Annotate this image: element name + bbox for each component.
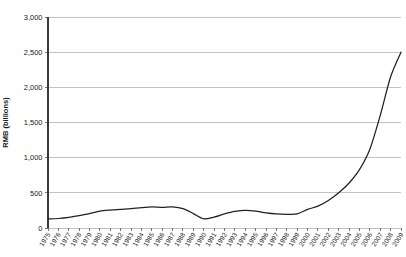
y-axis-title: RMB (billions) xyxy=(1,97,10,148)
y-axis-title-group: RMB (billions) xyxy=(1,97,10,148)
y-axis-tick-label: 1,500 xyxy=(24,118,43,127)
y-axis-tick-label: 0 xyxy=(38,224,42,233)
line-chart: 05001,0001,5002,0002,5003,000 1975197619… xyxy=(0,0,406,257)
y-axis-tick-label: 3,000 xyxy=(24,13,43,22)
x-axis-ticks-group: 1975197619771978197919801981198219831984… xyxy=(38,228,405,247)
chart-container: 05001,0001,5002,0002,5003,000 1975197619… xyxy=(0,0,406,257)
y-axis-tick-label: 2,500 xyxy=(24,48,43,57)
gridlines-group xyxy=(48,17,401,193)
y-axis-ticks-group: 05001,0001,5002,0002,5003,000 xyxy=(24,13,48,233)
series-group xyxy=(48,52,401,219)
x-axis-tick-label: 2009 xyxy=(391,231,405,247)
y-axis-tick-label: 1,000 xyxy=(24,153,43,162)
y-axis-tick-label: 2,000 xyxy=(24,83,43,92)
series-line-1 xyxy=(48,52,401,219)
y-axis-tick-label: 500 xyxy=(30,189,43,198)
